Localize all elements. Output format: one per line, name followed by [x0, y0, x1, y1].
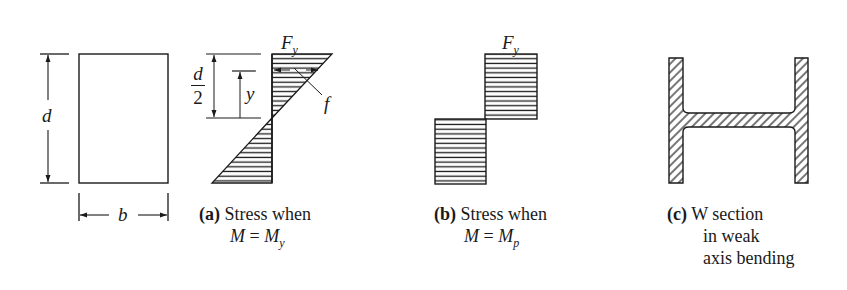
caption-b-tag: (b) — [434, 204, 456, 224]
width-label: b — [118, 205, 128, 224]
yield-stress-symbol: F — [281, 32, 293, 53]
caption-a-tag: (a) — [199, 204, 220, 224]
yield-stress-subscript: y — [514, 43, 519, 57]
half-depth-fraction: d 2 — [191, 64, 205, 107]
caption-c-line1: (c) W section — [667, 204, 763, 224]
caption-a-line1: (a) Stress when — [199, 204, 311, 224]
rectangular-cross-section — [79, 54, 168, 183]
moment-symbol: M — [230, 226, 245, 246]
yield-stress-subscript: y — [293, 43, 298, 57]
yield-stress-symbol: F — [502, 32, 514, 53]
caption-c-text: W section — [691, 204, 763, 224]
equals-sign: = — [484, 226, 494, 246]
caption-a-text: Stress when — [225, 204, 312, 224]
caption-b-line1: (b) Stress when — [434, 204, 547, 224]
half-depth-denominator: 2 — [193, 88, 203, 107]
yield-moment-subscript: y — [279, 236, 284, 250]
stress-distribution-figure: d b Fy d 2 y f (a) Stress when M = My Fy… — [0, 0, 847, 290]
figure-graphics — [0, 0, 847, 290]
y-distance-label: y — [246, 84, 254, 103]
plastic-moment-subscript: p — [513, 236, 519, 250]
plastic-stress-diagram — [435, 54, 537, 184]
equals-sign: = — [250, 226, 260, 246]
stress-f-label: f — [324, 94, 329, 113]
caption-b-text: Stress when — [461, 204, 548, 224]
fraction-bar — [191, 85, 205, 86]
half-depth-numerator: d — [193, 64, 203, 83]
yield-stress-label-a: Fy — [281, 33, 298, 52]
caption-c-tag: (c) — [667, 204, 687, 224]
plastic-moment-symbol: M — [498, 226, 513, 246]
moment-symbol: M — [464, 226, 479, 246]
caption-c-line3: axis bending — [703, 248, 795, 268]
yield-moment-symbol: M — [264, 226, 279, 246]
caption-a-line2: M = My — [230, 226, 284, 248]
depth-label: d — [42, 106, 52, 125]
caption-c-line2: in weak — [703, 226, 759, 246]
w-section-shape — [669, 58, 808, 183]
yield-stress-label-b: Fy — [502, 33, 519, 52]
caption-b-line2: M = Mp — [464, 226, 519, 248]
